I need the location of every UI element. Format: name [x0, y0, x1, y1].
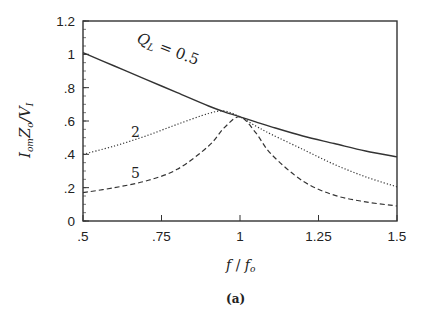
- x-tick-label: 1: [236, 229, 244, 244]
- tick-labels: 0.2.4.6.811.2.5.7511.251.5: [56, 14, 406, 244]
- y-tick-label: .4: [64, 147, 76, 162]
- chart-figure: 0.2.4.6.811.2.5.7511.251.5 QL = 0.5 2 5 …: [0, 0, 428, 323]
- figure-caption: (a): [226, 292, 245, 306]
- series-label-q2: 2: [131, 124, 140, 140]
- x-tick-label: 1.25: [305, 229, 331, 244]
- y-tick-label: .6: [64, 114, 75, 129]
- series-label-q5: 5: [131, 165, 140, 181]
- y-tick-label: .8: [64, 81, 75, 96]
- major-ticks: [83, 21, 397, 221]
- y-axis-label: IomZo/VI: [16, 102, 35, 159]
- y-tick-label: 1: [67, 47, 75, 62]
- plot-frame: [83, 21, 397, 221]
- x-tick-label: .75: [152, 229, 171, 244]
- y-tick-label: .2: [64, 181, 75, 196]
- x-tick-label: .5: [77, 229, 88, 244]
- line-chart: 0.2.4.6.811.2.5.7511.251.5 QL = 0.5 2 5 …: [0, 0, 428, 323]
- x-axis-label: f / fo: [225, 257, 256, 274]
- x-tick-label: 1.5: [388, 229, 407, 244]
- y-tick-label: 0: [67, 214, 75, 229]
- y-tick-label: 1.2: [56, 14, 75, 29]
- series-label-q05: QL = 0.5: [134, 29, 201, 70]
